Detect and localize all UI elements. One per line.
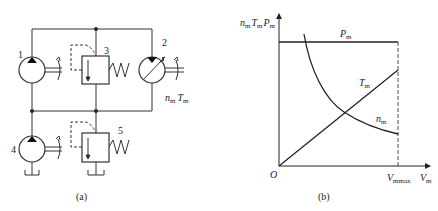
y-axis-label: nmTmPm [240, 17, 276, 30]
x-axis-label: Vm [420, 172, 432, 185]
hydraulic-circuit [19, 27, 184, 175]
caption-b: (b) [318, 191, 330, 203]
characteristic-chart [279, 14, 430, 166]
label-pump-4: 4 [11, 144, 16, 155]
pump-1-icon [19, 57, 62, 83]
label-valve-5: 5 [118, 125, 123, 136]
label-motor-2: 2 [162, 37, 167, 48]
relief-valve-3-icon [71, 45, 129, 84]
figure-canvas: 1 3 2 4 5 nmTm (a) nmTmPm Pm Tm nm O Vmm… [0, 0, 438, 211]
pump-4-icon [19, 136, 62, 175]
caption-a: (a) [76, 191, 87, 203]
label-valve-3: 3 [104, 45, 109, 56]
x-tick-vmmax: Vmmax [387, 172, 411, 185]
high-pressure-line [32, 29, 152, 57]
label-pump-1: 1 [18, 49, 23, 60]
origin-label: O [270, 169, 277, 180]
motor-output-label: nmTm [165, 92, 189, 105]
curve-label-Tm: Tm [359, 77, 371, 90]
curve-label-Pm: Pm [339, 28, 352, 41]
low-pressure-line [32, 83, 152, 111]
curve-label-nm: nm [376, 113, 387, 126]
variable-motor-2-icon [139, 57, 184, 83]
